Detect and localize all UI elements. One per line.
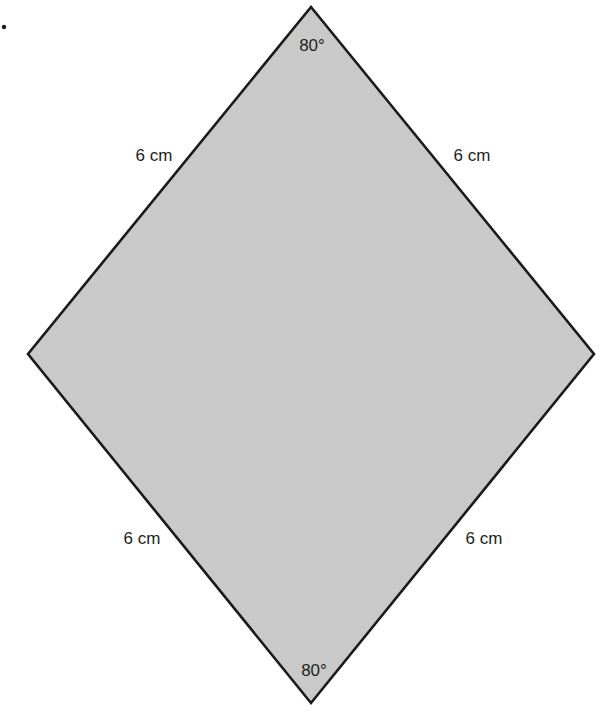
side-label-top-right: 6 cm [454,146,491,165]
question-marker-dot [2,25,6,29]
rhombus-diagram: 80° 80° 6 cm 6 cm 6 cm 6 cm [0,0,602,719]
side-label-top-left: 6 cm [136,146,173,165]
angle-label-bottom: 80° [301,661,327,680]
rhombus-shape [28,7,594,703]
side-label-bottom-left: 6 cm [124,529,161,548]
side-label-bottom-right: 6 cm [466,529,503,548]
angle-label-top: 80° [299,36,325,55]
